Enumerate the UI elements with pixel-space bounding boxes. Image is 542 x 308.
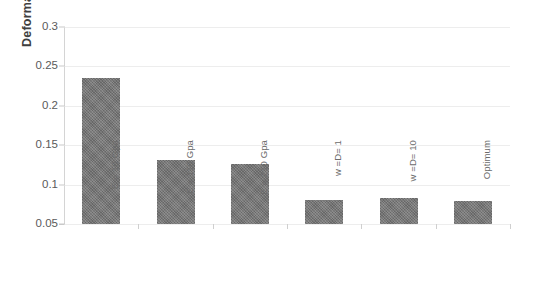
y-axis-tick-labels: 0.050.10.150.20.250.3 bbox=[10, 0, 58, 308]
y-axis-tick-label: 0.05 bbox=[14, 218, 58, 230]
x-axis-tick-label: w =D= 10 bbox=[406, 140, 420, 230]
y-axis-tick-label: 0.2 bbox=[14, 100, 58, 112]
x-axis-tick-mark bbox=[138, 224, 139, 229]
y-axis-tick-mark bbox=[59, 224, 65, 225]
y-axis-tick-label: 0.3 bbox=[14, 21, 58, 33]
x-axis-tick-mark bbox=[287, 224, 288, 229]
gridline bbox=[64, 106, 510, 107]
x-axis-tick-mark bbox=[510, 224, 511, 229]
bar-chart: Deformation 0.050.10.150.20.250.3 E = 10… bbox=[0, 0, 542, 308]
x-axis-tick-label: E = 10 Gpa bbox=[108, 140, 122, 230]
y-axis-tick-label: 0.15 bbox=[14, 139, 58, 151]
x-axis-tick-label: Optimum bbox=[480, 140, 494, 230]
y-axis-tick-label: 0.25 bbox=[14, 61, 58, 73]
x-axis-tick-mark bbox=[361, 224, 362, 229]
gridline bbox=[64, 66, 510, 67]
y-axis-tick-mark bbox=[59, 66, 65, 67]
y-axis-tick-mark bbox=[59, 27, 65, 28]
x-axis-tick-label: w =D= 1 bbox=[331, 140, 345, 230]
plot-area bbox=[64, 27, 510, 224]
x-axis-tick-label: E = 210 Gpa bbox=[257, 140, 271, 230]
gridline bbox=[64, 185, 510, 186]
gridline bbox=[64, 27, 510, 28]
y-axis-tick-mark bbox=[59, 105, 65, 106]
x-axis-tick-mark bbox=[436, 224, 437, 229]
y-axis-tick-mark bbox=[59, 145, 65, 146]
gridline bbox=[64, 145, 510, 146]
x-axis-tick-mark bbox=[213, 224, 214, 229]
x-axis-tick-label: E = 110 Gpa bbox=[183, 140, 197, 230]
y-axis-tick-mark bbox=[59, 184, 65, 185]
y-axis-tick-label: 0.1 bbox=[14, 179, 58, 191]
